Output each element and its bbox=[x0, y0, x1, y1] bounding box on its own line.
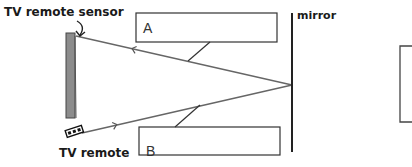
tv-remote-sensor-label: TV remote sensor bbox=[4, 5, 124, 19]
tv-side-view bbox=[66, 33, 75, 118]
diagram-canvas bbox=[0, 0, 412, 167]
box-a-label: A bbox=[143, 20, 152, 36]
reflected-ray bbox=[76, 36, 292, 85]
box-a-connector bbox=[188, 42, 210, 61]
mirror-label: mirror bbox=[297, 9, 336, 22]
tv-remote-mirror-diagram: TV remote sensor TV remote mirror A B bbox=[0, 0, 412, 167]
box-b bbox=[139, 127, 280, 155]
incident-ray bbox=[82, 85, 292, 133]
box-b-label: B bbox=[146, 143, 155, 159]
sensor-pointer-arrow-icon bbox=[76, 21, 85, 36]
tv-remote-icon bbox=[65, 125, 83, 137]
box-a bbox=[136, 13, 277, 42]
partial-box bbox=[400, 46, 412, 122]
tv-remote-label: TV remote bbox=[59, 146, 129, 160]
